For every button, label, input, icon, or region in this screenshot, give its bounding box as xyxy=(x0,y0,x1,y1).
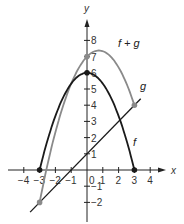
y-tick-label: −1 xyxy=(91,181,103,192)
y-tick-label: 2 xyxy=(91,133,97,144)
x-tick-label: 2 xyxy=(116,175,122,186)
y-tick-label: 4 xyxy=(91,100,97,111)
x-tick-label: 4 xyxy=(147,175,153,186)
y-tick-label: −2 xyxy=(91,197,103,208)
x-tick-label: −1 xyxy=(65,175,77,186)
data-point-marker xyxy=(84,70,90,76)
x-axis-label: x xyxy=(170,165,177,176)
y-axis-label: y xyxy=(83,3,90,14)
f-plus-g-label: f + g xyxy=(118,37,141,49)
y-axis-arrow-icon xyxy=(85,19,90,27)
x-tick-label: −2 xyxy=(49,175,61,186)
y-tick-label: 5 xyxy=(91,84,97,95)
x-tick-label: 3 xyxy=(131,175,137,186)
y-tick-label: 8 xyxy=(91,35,97,46)
axes: xy−4−3−2−101234−2−112345678 xyxy=(8,3,177,222)
data-point-marker xyxy=(37,167,43,173)
g-line xyxy=(30,99,141,212)
chart-canvas: xy−4−3−2−101234−2−112345678 f + ggf xyxy=(0,0,184,224)
labels: f + ggf xyxy=(118,37,147,148)
curves xyxy=(30,51,141,213)
f-label: f xyxy=(133,136,137,148)
y-tick-label: 3 xyxy=(91,116,97,127)
data-point-marker xyxy=(132,102,138,108)
data-point-marker xyxy=(132,167,138,173)
x-axis-arrow-icon xyxy=(158,168,166,173)
data-point-marker xyxy=(84,54,90,60)
x-tick-label: −4 xyxy=(18,175,30,186)
data-point-marker xyxy=(37,200,43,206)
g-label: g xyxy=(140,80,147,92)
y-tick-label: 1 xyxy=(91,149,97,160)
